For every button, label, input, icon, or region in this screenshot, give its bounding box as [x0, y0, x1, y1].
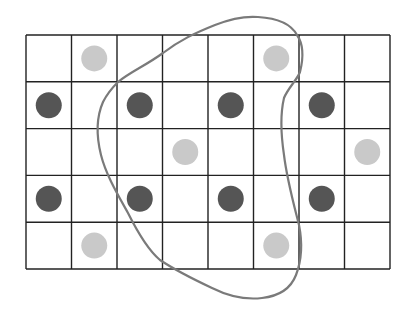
light-dot: [81, 233, 107, 259]
dark-dot: [218, 186, 244, 212]
dark-dot: [127, 186, 153, 212]
light-dot: [263, 45, 289, 71]
dark-dot: [36, 186, 62, 212]
dark-dot: [127, 92, 153, 118]
light-dot: [81, 45, 107, 71]
dark-dot: [309, 92, 335, 118]
background: [0, 0, 408, 313]
light-dot: [263, 233, 289, 259]
light-dot: [172, 139, 198, 165]
grid-diagram: [0, 0, 408, 313]
dark-dot: [309, 186, 335, 212]
dark-dot: [218, 92, 244, 118]
dark-dot: [36, 92, 62, 118]
light-dot: [354, 139, 380, 165]
